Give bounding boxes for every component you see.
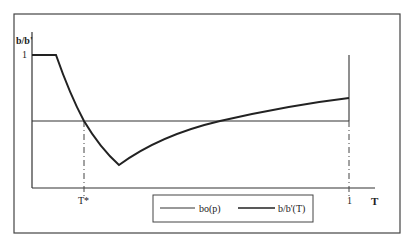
x-axis-label: T	[371, 195, 379, 207]
x-tick-tstar: T*	[78, 195, 89, 206]
legend-label-bb: b/b'(T)	[278, 203, 305, 215]
y-axis-label: b/b'	[16, 35, 33, 46]
y-tick-1: 1	[22, 49, 27, 60]
chart-svg: b/b' 1 T* 1 T bo(p) b/b'(T)	[0, 0, 415, 243]
legend-label-bo: bo(p)	[199, 203, 221, 215]
x-tick-1: 1	[347, 195, 352, 206]
series-bb-curve	[32, 55, 349, 165]
